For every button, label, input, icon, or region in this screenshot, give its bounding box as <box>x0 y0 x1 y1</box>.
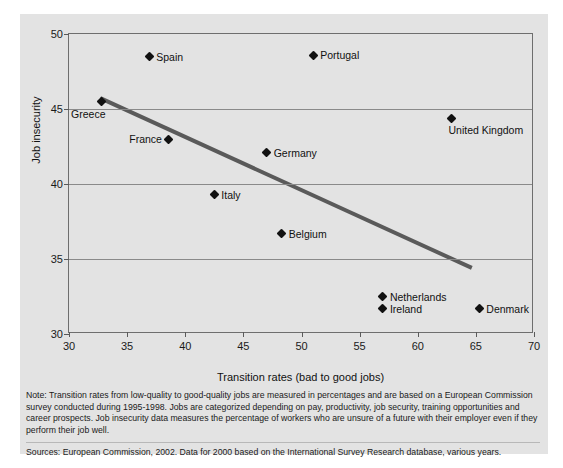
y-tick-label-35: 35 <box>51 253 63 265</box>
y-tick-label-45: 45 <box>51 103 63 115</box>
data-point-label: United Kingdom <box>448 125 523 136</box>
x-tick-label-70: 70 <box>528 340 540 352</box>
data-point-label: Ireland <box>390 304 422 315</box>
gridline-y-40 <box>69 184 532 185</box>
plot-area: 3035404550 303540455055606570 GreeceSpai… <box>68 33 533 333</box>
y-axis-title: Job insecurity <box>30 70 42 190</box>
trendline <box>69 34 532 332</box>
y-tick-label-30: 30 <box>51 328 63 340</box>
y-tick-label-50: 50 <box>51 28 63 40</box>
footnotes: Note: Transition rates from low-quality … <box>26 390 540 459</box>
x-tick-label-55: 55 <box>354 340 366 352</box>
gridline-y-45 <box>69 109 532 110</box>
sources-paragraph: Sources: European Commission, 2002. Data… <box>26 447 540 459</box>
y-tick-mark-40 <box>64 184 69 185</box>
x-tick-mark-30 <box>69 332 70 337</box>
data-point-label: Germany <box>274 148 317 159</box>
x-tick-label-60: 60 <box>412 340 424 352</box>
data-point-label: Portugal <box>320 50 359 61</box>
data-point-label: France <box>129 134 162 145</box>
y-tick-mark-50 <box>64 34 69 35</box>
note-paragraph: Note: Transition rates from low-quality … <box>26 390 540 437</box>
gridline-y-35 <box>69 259 532 260</box>
x-tick-mark-45 <box>243 332 244 337</box>
x-tick-label-30: 30 <box>63 340 75 352</box>
x-axis-title: Transition rates (bad to good jobs) <box>68 371 533 383</box>
y-tick-mark-45 <box>64 109 69 110</box>
x-tick-mark-70 <box>534 332 535 337</box>
data-point-label: Belgium <box>289 229 327 240</box>
data-point-label: Greece <box>71 109 105 120</box>
x-tick-mark-50 <box>302 332 303 337</box>
data-point-label: Denmark <box>486 304 529 315</box>
x-tick-label-50: 50 <box>295 340 307 352</box>
data-point-label: Italy <box>221 190 240 201</box>
x-tick-label-65: 65 <box>470 340 482 352</box>
x-tick-mark-35 <box>127 332 128 337</box>
y-tick-label-40: 40 <box>51 178 63 190</box>
x-tick-mark-40 <box>185 332 186 337</box>
note-divider <box>26 442 540 443</box>
figure-panel: 3035404550 303540455055606570 GreeceSpai… <box>20 14 548 454</box>
x-tick-label-40: 40 <box>179 340 191 352</box>
x-tick-mark-60 <box>418 332 419 337</box>
x-tick-mark-55 <box>360 332 361 337</box>
data-point-label: Spain <box>156 52 183 63</box>
x-tick-mark-65 <box>476 332 477 337</box>
x-tick-label-45: 45 <box>237 340 249 352</box>
x-tick-label-35: 35 <box>121 340 133 352</box>
y-tick-mark-35 <box>64 259 69 260</box>
data-point-label: Netherlands <box>390 292 447 303</box>
